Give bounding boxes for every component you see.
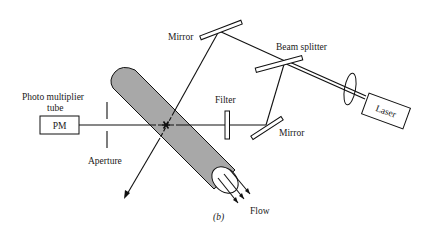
pm-label: PM [53,121,67,131]
filter-label: Filter [215,95,236,105]
figure-caption: (b) [213,212,224,223]
beam-splitter-to-mirror [266,61,285,125]
laser-box: Laser [362,93,411,129]
photomultiplier-label-line2: tube [47,103,63,113]
photomultiplier-label-line1: Photo multiplier [22,92,85,102]
mirror-top-label: Mirror [168,32,194,42]
flow-label: Flow [250,206,270,216]
optical-setup-diagram: Laser Mirror Beam splitter Mirror Filter… [0,0,430,240]
beam-splitter-label: Beam splitter [276,42,328,52]
mirror-right-label: Mirror [279,128,305,138]
flow-tube [111,67,243,198]
mirror-top [200,20,243,40]
aperture-label: Aperture [88,156,122,166]
laser-beam [284,60,366,99]
filter [225,111,230,139]
